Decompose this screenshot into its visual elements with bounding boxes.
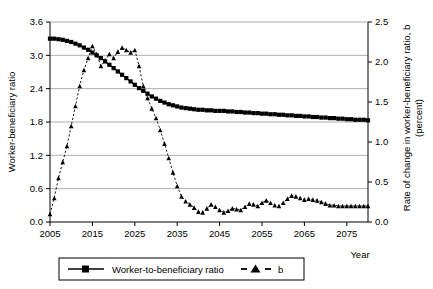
series-ratio-marker <box>230 109 234 113</box>
series-b-marker <box>217 208 222 213</box>
series-b-marker <box>289 193 294 198</box>
series-b-marker <box>82 68 87 73</box>
series-ratio-marker <box>154 97 158 101</box>
series-b-marker <box>133 48 138 53</box>
series-ratio-marker <box>222 109 226 113</box>
series-ratio-marker <box>124 76 128 80</box>
series-ratio-marker <box>353 118 357 122</box>
series-b-marker <box>306 197 311 202</box>
series-ratio-marker <box>78 43 82 47</box>
y-axis-title: Worker-beneficiary ratio <box>6 72 17 173</box>
series-ratio-marker <box>243 110 247 114</box>
x-tick-label: 2045 <box>209 228 230 239</box>
series-ratio-marker <box>290 113 294 117</box>
series-ratio-marker <box>315 115 319 119</box>
series-b-marker <box>107 52 112 57</box>
series-b-marker <box>272 203 277 208</box>
series-ratio-marker <box>205 108 209 112</box>
x-tick-label: 2025 <box>124 228 145 239</box>
y2-axis-title-line1: Rate of change in worker-beneficiary rat… <box>401 25 412 211</box>
series-ratio-marker <box>61 38 65 42</box>
series-b-marker <box>166 156 171 161</box>
series-worker-to-beneficiary-ratio <box>48 37 370 123</box>
series-ratio-path <box>50 39 368 121</box>
y-tick-label: 1.8 <box>30 116 43 127</box>
y2-axis-title-line2: (percent) <box>413 99 424 137</box>
series-ratio-marker <box>184 106 188 110</box>
series-b-marker <box>158 128 163 133</box>
series-b-marker <box>154 116 159 121</box>
x-tick-label: 2065 <box>294 228 315 239</box>
x-tick-label: 2015 <box>82 228 103 239</box>
series-b-marker <box>86 56 91 61</box>
series-b-marker <box>175 184 180 189</box>
series-ratio-marker <box>362 118 366 122</box>
x-tick-label: 2075 <box>336 228 357 239</box>
series-ratio-marker <box>319 115 323 119</box>
series-b-marker <box>264 198 269 203</box>
series-b-marker <box>56 176 61 181</box>
series-ratio-marker <box>128 79 132 83</box>
series-ratio-marker <box>256 111 260 115</box>
series-b-marker <box>196 209 201 214</box>
series-b-marker <box>222 210 227 215</box>
series-ratio-marker <box>366 118 370 122</box>
series-ratio-marker <box>302 114 306 118</box>
series-ratio-marker <box>239 110 243 114</box>
series-b-marker <box>77 84 82 89</box>
series-b-marker <box>69 124 74 129</box>
chart-svg: 0.00.61.21.82.43.03.6 0.00.51.01.52.02.5… <box>0 0 433 289</box>
y-tick-label: 2.4 <box>30 83 43 94</box>
series-b-marker <box>48 212 53 217</box>
series-ratio-marker <box>201 108 205 112</box>
series-ratio-marker <box>345 117 349 121</box>
series-b-marker <box>124 48 129 53</box>
series-ratio-marker <box>285 113 289 117</box>
series-ratio-marker <box>264 112 268 116</box>
series-ratio-marker <box>137 86 141 90</box>
chart-legend: Worker-to-beneficiary ratio b <box>59 258 304 280</box>
series-ratio-marker <box>260 112 264 116</box>
series-b-marker <box>319 200 324 205</box>
series-ratio-marker <box>281 113 285 117</box>
legend-label-ratio: Worker-to-beneficiary ratio <box>112 264 224 275</box>
y-tick-label: 1.2 <box>30 150 43 161</box>
series-b-marker <box>90 44 95 49</box>
series-ratio-marker <box>357 118 361 122</box>
series-ratio-marker <box>162 100 166 104</box>
series-ratio-marker <box>179 105 183 109</box>
y2-tick-label: 0.5 <box>375 176 388 187</box>
series-b-marker <box>52 196 57 201</box>
series-b-marker <box>188 202 193 207</box>
series-ratio-marker <box>145 92 149 96</box>
series-ratio-marker <box>336 117 340 121</box>
series-b-marker <box>200 210 205 215</box>
series-ratio-marker <box>65 39 69 43</box>
y2-tick-label: 1.0 <box>375 136 388 147</box>
series-ratio-marker <box>298 114 302 118</box>
series-b-marker <box>149 106 154 111</box>
series-ratio-marker <box>196 108 200 112</box>
series-ratio-marker <box>294 114 298 118</box>
series-ratio-marker <box>209 108 213 112</box>
series-b-marker <box>111 56 116 61</box>
series-b-marker <box>302 197 307 202</box>
series-ratio-marker <box>349 117 353 121</box>
series-ratio-marker <box>48 37 52 41</box>
series-ratio-marker <box>95 53 99 57</box>
series-ratio-marker <box>141 89 145 93</box>
gridlines-group <box>50 22 368 189</box>
series-ratio-marker <box>218 109 222 113</box>
series-b-marker <box>226 209 231 214</box>
x-tick-label: 2035 <box>167 228 188 239</box>
x-axis-title: Year <box>350 249 369 260</box>
series-ratio-marker <box>268 112 272 116</box>
series-ratio-marker <box>175 104 179 108</box>
y-tick-label: 3.6 <box>30 16 43 27</box>
series-ratio-marker <box>86 48 90 52</box>
series-b-marker <box>137 64 142 69</box>
series-b-marker <box>65 144 70 149</box>
series-b-marker <box>247 201 252 206</box>
series-ratio-marker <box>69 40 73 44</box>
series-b-marker <box>73 104 78 109</box>
